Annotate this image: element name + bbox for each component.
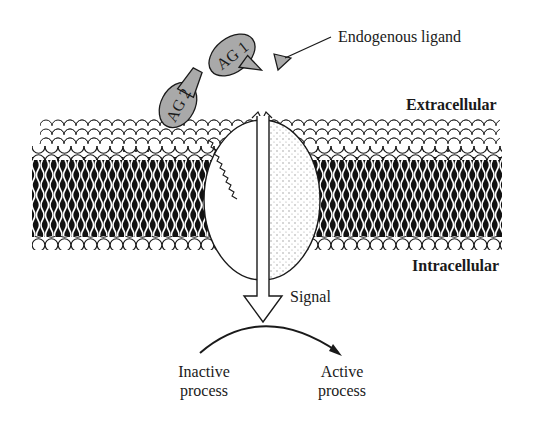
extracellular-label: Extracellular	[406, 95, 497, 114]
endogenous-ligand-label: Endogenous ligand	[338, 27, 461, 46]
activation-arc	[200, 326, 342, 356]
endogenous-ligand	[274, 37, 331, 70]
membrane-diagram: AG 2 AG 1	[0, 0, 545, 423]
inactive-line2: process	[168, 381, 240, 400]
active-process-label: Active process	[306, 362, 378, 400]
agonist-ag1: AG 1	[201, 26, 271, 95]
active-line1: Active	[306, 362, 378, 381]
intracellular-label: Intracellular	[412, 256, 499, 275]
inactive-process-label: Inactive process	[168, 362, 240, 400]
signal-label: Signal	[290, 287, 331, 306]
inactive-line1: Inactive	[168, 362, 240, 381]
active-line2: process	[306, 381, 378, 400]
